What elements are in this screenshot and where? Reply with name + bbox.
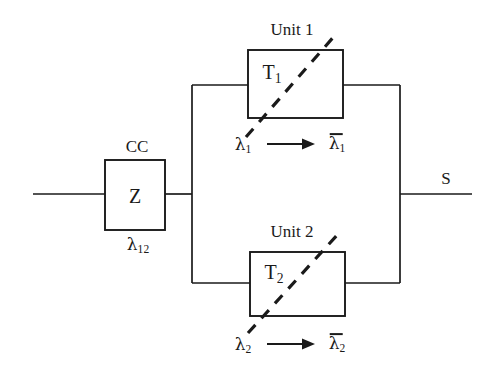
unit-1-rate-from-symbol: λ <box>235 134 246 154</box>
unit-1-block-letter: T <box>262 61 274 83</box>
unit-2-rate-to-symbol: λ <box>329 333 340 353</box>
unit-2-block-label: T2 <box>264 262 283 285</box>
unit-2-title: Unit 2 <box>271 223 314 240</box>
unit-1-rate-from-label: λ1 <box>235 136 252 156</box>
unit-2-rate-from-symbol: λ <box>235 334 246 354</box>
unit-1-rate-to-label: λ1 <box>329 135 346 155</box>
unit-1-diagonal-dashed-line <box>246 33 337 137</box>
common-cause-rate-symbol: λ <box>127 234 138 254</box>
unit-2-diagonal-dashed-line <box>248 233 339 333</box>
unit-2-rate-to-subscript: 2 <box>340 342 346 355</box>
unit-1-block-label: T1 <box>262 62 281 85</box>
unit-1-rate-from-subscript: 1 <box>246 143 252 156</box>
unit-2-block-letter: T <box>264 261 276 283</box>
unit-1-transition-arrow-head <box>302 139 315 150</box>
unit-2-rate-from-label: λ2 <box>235 336 252 356</box>
reliability-block-diagram: CC Z λ12 Unit 1 T1 λ1 λ1 Unit 2 T2 λ2 λ2… <box>0 0 500 387</box>
common-cause-rate-subscript: 12 <box>138 243 150 256</box>
output-label: S <box>441 170 450 187</box>
unit-2-rate-to-overbar: λ2 <box>329 335 346 355</box>
common-cause-rate-label: λ12 <box>127 236 149 256</box>
diagram-canvas <box>0 0 500 387</box>
unit-2-rate-from-subscript: 2 <box>246 343 252 356</box>
unit-1-rate-to-subscript: 1 <box>340 142 346 155</box>
common-cause-block-label: Z <box>129 186 141 206</box>
unit-1-rate-to-overbar: λ1 <box>329 135 346 155</box>
unit-1-block-subscript: 1 <box>275 71 282 86</box>
unit-1-rate-to-symbol: λ <box>329 133 340 153</box>
unit-2-block-subscript: 2 <box>277 271 284 286</box>
unit-2-rate-to-label: λ2 <box>329 335 346 355</box>
unit-2-transition-arrow-head <box>302 339 315 350</box>
unit-1-title: Unit 1 <box>271 21 314 38</box>
common-cause-title: CC <box>126 138 149 155</box>
